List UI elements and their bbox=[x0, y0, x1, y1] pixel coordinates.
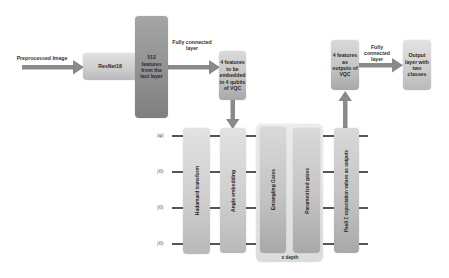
hadamard-label: Hadamard transform bbox=[194, 166, 200, 215]
output-layer-box: Output layer with two classes bbox=[403, 40, 431, 90]
input-arrow bbox=[22, 60, 84, 75]
features-512-label: 512 features from the last layer bbox=[137, 54, 166, 80]
ket-zero-3: |0⟩ bbox=[157, 240, 164, 246]
vqc-output-box: 4 features as outputs of VQC bbox=[331, 40, 359, 90]
depth-label: x depth bbox=[276, 255, 304, 261]
input-label: Preprocessed Image bbox=[14, 55, 70, 61]
embed-features-label: 4 features to be embedded in 4 qubits of… bbox=[220, 59, 246, 91]
vqc-up-arrow bbox=[339, 91, 353, 128]
pauli-z-label: Pauli Z expectation values as outputs bbox=[344, 150, 350, 232]
ket-zero-1: |0⟩ bbox=[157, 168, 164, 174]
vqc-output-label: 4 features as outputs of VQC bbox=[332, 52, 358, 78]
resnet18-label: ResNet18 bbox=[98, 63, 122, 69]
angle-embedding-label: Angle embedding bbox=[230, 170, 236, 212]
fc2-label: Fully connected layer bbox=[360, 44, 394, 63]
embed-features-box: 4 features to be embedded in 4 qubits of… bbox=[219, 51, 246, 100]
fc1-arrow bbox=[168, 60, 220, 75]
angle-embedding-box: Angle embedding bbox=[220, 128, 246, 253]
pauli-z-box: Pauli Z expectation values as outputs bbox=[334, 128, 359, 253]
hadamard-box: Hadamard transform bbox=[183, 128, 210, 254]
ket-psi: |ψ⟩ bbox=[157, 132, 164, 138]
output-layer-label: Output layer with two classes bbox=[404, 52, 430, 78]
ket-zero-2: |0⟩ bbox=[157, 204, 164, 210]
parametrized-gates-box: Parametrized gates bbox=[293, 128, 320, 253]
entangling-gates-label: Entangling Gates bbox=[270, 169, 276, 210]
features-512-box: 512 features from the last layer bbox=[135, 16, 168, 118]
resnet18-box: ResNet18 bbox=[83, 53, 137, 80]
fc1-label: Fully connected layer bbox=[172, 39, 212, 51]
parametrized-gates-label: Parametrized gates bbox=[304, 168, 310, 214]
embed-down-arrow bbox=[226, 100, 240, 129]
entangling-gates-box: Entangling Gates bbox=[260, 127, 286, 253]
